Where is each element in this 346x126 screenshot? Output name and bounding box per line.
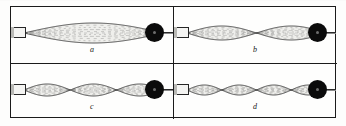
vibrator-clamp-icon [176,84,189,95]
pulley-icon [308,23,327,42]
pulley-hub-icon [316,31,319,34]
string-stage-a [11,21,173,45]
figure-frame: a b c [10,6,336,118]
pulley-icon [308,80,327,99]
string-stage-d [174,78,336,102]
wave-svg-a [24,21,163,45]
pulley-icon [145,23,164,42]
panel-caption-b: b [174,45,336,54]
wave-svg-b [187,21,326,45]
vibrator-clamp-icon [13,27,26,38]
wave-svg-c [24,78,163,102]
panel-caption-d: d [174,102,336,111]
pulley-hub-icon [153,31,156,34]
wave-svg-d [187,78,326,102]
panel-caption-c: c [11,102,173,111]
standing-wave-a [24,21,163,45]
standing-wave-figure: a b c [0,0,346,126]
panel-b: b [174,7,336,63]
panel-c: c [11,64,173,120]
panel-caption-a: a [11,45,173,54]
string-stage-b [174,21,336,45]
pulley-hub-icon [153,88,156,91]
string-stage-c [11,78,173,102]
pulley-icon [145,80,164,99]
standing-wave-d [187,78,326,102]
standing-wave-b [187,21,326,45]
pulley-hub-icon [316,88,319,91]
vibrator-clamp-icon [13,84,26,95]
panel-d: d [174,64,336,120]
standing-wave-c [24,78,163,102]
vibrator-clamp-icon [176,27,189,38]
panel-a: a [11,7,173,63]
